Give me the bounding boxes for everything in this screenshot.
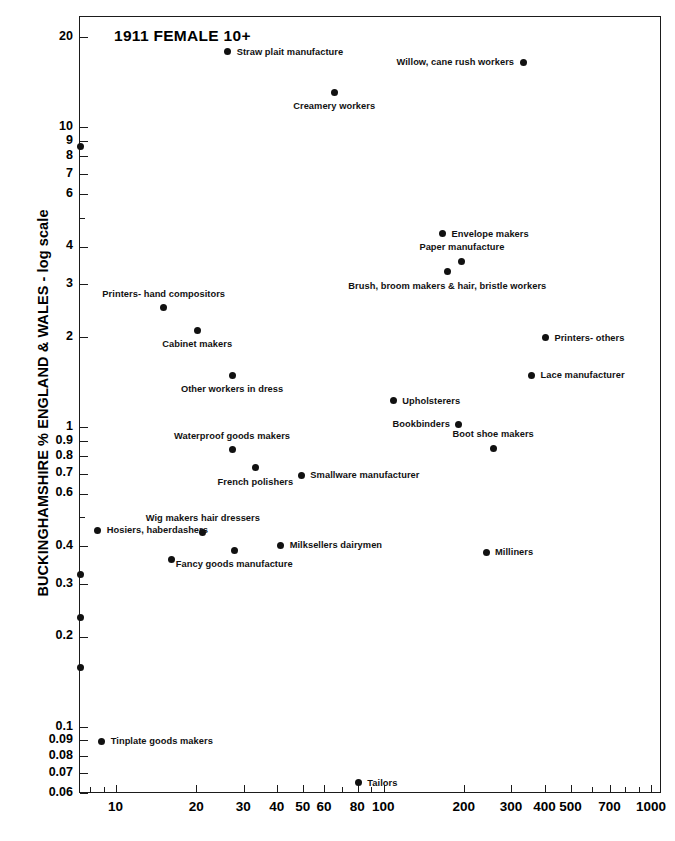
data-point-label: Tinplate goods makers bbox=[111, 736, 213, 746]
data-point bbox=[331, 89, 338, 96]
y-axis-tick-label: 0.08 bbox=[0, 748, 73, 762]
y-axis-tick bbox=[80, 584, 88, 585]
x-axis-tick bbox=[358, 785, 359, 792]
chart-figure: BUCKINGHAMSHIRE % ENGLAND & WALES - log … bbox=[0, 0, 675, 841]
data-point bbox=[542, 334, 549, 341]
y-axis-tick-label: 0.1 bbox=[0, 719, 73, 733]
data-point-label: Smallware manufacturer bbox=[310, 470, 419, 480]
x-axis-tick bbox=[639, 787, 640, 792]
x-axis-tick bbox=[90, 787, 91, 792]
y-axis-tick-label: 0.3 bbox=[0, 576, 73, 590]
data-point-label: Willow, cane rush workers bbox=[396, 57, 514, 67]
plot-area: 1911 FEMALE 10+ Straw plait manufactureW… bbox=[79, 16, 661, 793]
data-point-label: Boot shoe makers bbox=[452, 429, 533, 439]
x-axis-tick bbox=[545, 785, 546, 792]
x-axis-tick bbox=[571, 785, 572, 792]
y-axis-tick bbox=[80, 127, 88, 128]
data-point bbox=[194, 327, 201, 334]
data-point-label: Wig makers hair dressers bbox=[146, 513, 260, 523]
x-axis-tick bbox=[324, 785, 325, 792]
data-point bbox=[390, 397, 397, 404]
x-axis-tick bbox=[116, 785, 117, 792]
y-axis-tick bbox=[80, 727, 88, 728]
data-point bbox=[439, 230, 446, 237]
data-point-label: Lace manufacturer bbox=[541, 370, 625, 380]
y-axis-tick-label: 4 bbox=[0, 238, 73, 252]
x-axis-tick bbox=[196, 785, 197, 792]
y-axis-tick bbox=[80, 456, 88, 457]
data-point-label: Printers- others bbox=[554, 333, 624, 343]
y-axis-tick-label: 0.9 bbox=[0, 433, 73, 447]
y-axis-tick-label: 0.8 bbox=[0, 448, 73, 462]
data-point-label: Cabinet makers bbox=[162, 339, 232, 349]
y-axis-tick-label: 0.6 bbox=[0, 485, 73, 499]
y-axis-tick bbox=[80, 773, 88, 774]
y-axis-tick bbox=[80, 218, 85, 219]
data-point-label: Paper manufacture bbox=[419, 242, 504, 252]
data-point bbox=[490, 445, 497, 452]
x-axis-tick bbox=[592, 787, 593, 792]
y-axis-tick bbox=[80, 474, 88, 475]
x-axis-tick bbox=[277, 785, 278, 792]
y-axis-tick-label: 0.09 bbox=[0, 732, 73, 746]
x-axis-tick bbox=[464, 785, 465, 792]
y-axis-tick bbox=[80, 337, 88, 338]
y-axis-tick-label: 3 bbox=[0, 276, 73, 290]
data-point-label: Envelope makers bbox=[452, 229, 529, 239]
data-point-label: Upholsterers bbox=[402, 396, 460, 406]
y-axis-tick bbox=[80, 141, 88, 142]
x-axis-tick bbox=[303, 785, 304, 792]
data-point-label: Creamery workers bbox=[293, 101, 375, 111]
data-point bbox=[277, 542, 284, 549]
data-point bbox=[77, 571, 84, 578]
data-point-label: Brush, broom makers & hair, bristle work… bbox=[348, 281, 546, 291]
y-axis-tick-label: 1 bbox=[0, 419, 73, 433]
y-axis-tick bbox=[80, 156, 88, 157]
data-point-label: Hosiers, haberdashers bbox=[107, 525, 208, 535]
y-axis-tick bbox=[80, 740, 88, 741]
y-axis-tick-label: 0.06 bbox=[0, 785, 73, 799]
data-point bbox=[77, 143, 84, 150]
y-axis-tick bbox=[80, 494, 88, 495]
data-point bbox=[77, 614, 84, 621]
x-axis-tick-label: 1000 bbox=[611, 799, 675, 814]
y-axis-tick bbox=[80, 194, 88, 195]
data-point-label: Milksellers dairymen bbox=[290, 540, 382, 550]
data-point bbox=[98, 738, 105, 745]
data-point bbox=[77, 664, 84, 671]
data-point bbox=[231, 547, 238, 554]
x-axis-tick-label: 100 bbox=[343, 799, 423, 814]
x-axis-tick bbox=[342, 787, 343, 792]
data-point-label: Printers- hand compositors bbox=[102, 289, 225, 299]
x-axis-tick bbox=[244, 785, 245, 792]
y-axis-title: BUCKINGHAMSHIRE % ENGLAND & WALES - log … bbox=[35, 123, 51, 683]
y-axis-tick-label: 0.4 bbox=[0, 538, 73, 552]
data-point-label: Tailors bbox=[367, 778, 397, 788]
data-point bbox=[520, 59, 527, 66]
data-point-label: Milliners bbox=[495, 547, 533, 557]
y-axis-tick bbox=[80, 517, 85, 518]
data-point bbox=[94, 527, 101, 534]
data-point bbox=[355, 779, 362, 786]
data-point bbox=[229, 372, 236, 379]
x-axis-tick bbox=[371, 787, 372, 792]
y-axis-tick bbox=[80, 637, 88, 638]
data-point-label: Bookbinders bbox=[393, 419, 450, 429]
data-point-label: French polishers bbox=[218, 477, 294, 487]
data-point-label: Straw plait manufacture bbox=[237, 47, 344, 57]
data-point bbox=[444, 268, 451, 275]
y-axis-tick-label: 9 bbox=[0, 133, 73, 147]
data-point bbox=[252, 464, 259, 471]
y-axis-tick-label: 8 bbox=[0, 148, 73, 162]
x-axis-tick bbox=[651, 785, 652, 792]
y-axis-tick bbox=[80, 174, 88, 175]
y-axis-tick-label: 7 bbox=[0, 166, 73, 180]
y-axis-tick-label: 10 bbox=[0, 119, 73, 133]
data-point bbox=[483, 549, 490, 556]
data-point bbox=[298, 472, 305, 479]
data-point bbox=[458, 258, 465, 265]
x-axis-tick bbox=[511, 785, 512, 792]
data-point-label: Waterproof goods makers bbox=[174, 431, 290, 441]
y-axis-tick-label: 6 bbox=[0, 186, 73, 200]
data-point-label: Fancy goods manufacture bbox=[176, 559, 293, 569]
